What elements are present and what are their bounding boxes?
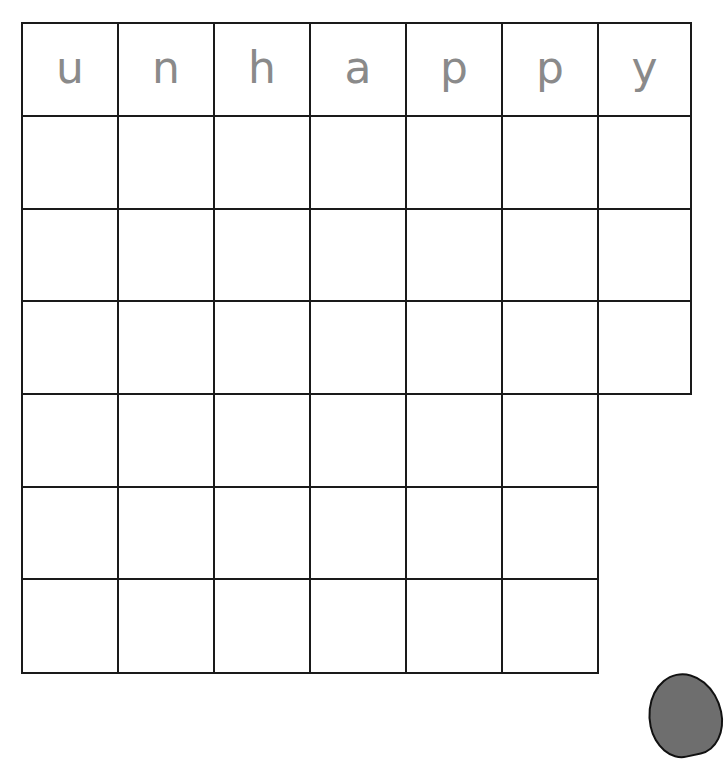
- header-letter: a: [345, 46, 372, 90]
- writing-cell[interactable]: [309, 578, 407, 674]
- writing-cell[interactable]: [309, 300, 407, 395]
- writing-cell[interactable]: [501, 115, 599, 210]
- writing-cell[interactable]: [213, 208, 311, 302]
- header-letter-cell: u: [21, 22, 119, 117]
- writing-cell[interactable]: [213, 486, 311, 580]
- header-letter-cell: a: [309, 22, 407, 117]
- writing-cell[interactable]: [117, 208, 215, 302]
- header-letter-cell: p: [405, 22, 503, 117]
- writing-cell[interactable]: [405, 300, 503, 395]
- header-letter-cell: y: [597, 22, 692, 117]
- writing-cell[interactable]: [405, 115, 503, 210]
- writing-cell[interactable]: [405, 393, 503, 488]
- writing-cell[interactable]: [501, 486, 599, 580]
- writing-cell[interactable]: [213, 393, 311, 488]
- header-letter-cell: n: [117, 22, 215, 117]
- header-letter: n: [152, 46, 180, 90]
- writing-cell[interactable]: [21, 578, 119, 674]
- writing-cell[interactable]: [309, 393, 407, 488]
- decorative-blob-icon: [640, 666, 728, 763]
- header-letter-cell: h: [213, 22, 311, 117]
- writing-cell[interactable]: [309, 486, 407, 580]
- writing-cell[interactable]: [213, 578, 311, 674]
- writing-cell[interactable]: [597, 300, 692, 395]
- writing-cell[interactable]: [117, 393, 215, 488]
- writing-cell[interactable]: [501, 393, 599, 488]
- writing-cell[interactable]: [21, 115, 119, 210]
- header-letter-cell: p: [501, 22, 599, 117]
- writing-cell[interactable]: [213, 300, 311, 395]
- header-letter: p: [440, 46, 468, 90]
- writing-cell[interactable]: [21, 393, 119, 488]
- header-letter: p: [536, 46, 564, 90]
- header-letter: h: [248, 46, 276, 90]
- writing-cell[interactable]: [501, 578, 599, 674]
- writing-cell[interactable]: [597, 115, 692, 210]
- writing-cell[interactable]: [501, 300, 599, 395]
- writing-cell[interactable]: [21, 486, 119, 580]
- writing-cell[interactable]: [405, 208, 503, 302]
- writing-cell[interactable]: [117, 300, 215, 395]
- writing-cell[interactable]: [213, 115, 311, 210]
- writing-cell[interactable]: [309, 208, 407, 302]
- header-letter: u: [56, 46, 84, 90]
- header-letter: y: [631, 46, 657, 90]
- writing-cell[interactable]: [405, 578, 503, 674]
- writing-cell[interactable]: [501, 208, 599, 302]
- writing-cell[interactable]: [405, 486, 503, 580]
- writing-cell[interactable]: [21, 300, 119, 395]
- writing-cell[interactable]: [117, 115, 215, 210]
- writing-cell[interactable]: [597, 208, 692, 302]
- writing-cell[interactable]: [309, 115, 407, 210]
- writing-cell[interactable]: [21, 208, 119, 302]
- writing-cell[interactable]: [117, 578, 215, 674]
- writing-cell[interactable]: [117, 486, 215, 580]
